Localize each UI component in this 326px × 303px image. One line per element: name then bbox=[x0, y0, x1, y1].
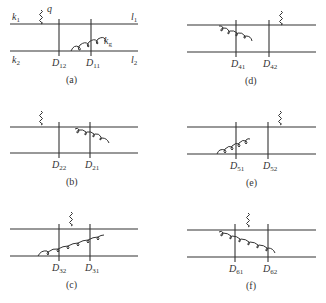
svg-text:k2: k2 bbox=[12, 54, 20, 67]
svg-text:D41: D41 bbox=[230, 58, 246, 71]
panel-b: D22 D21 (b) bbox=[10, 111, 138, 188]
svg-text:(e): (e) bbox=[246, 177, 257, 189]
photon-icon bbox=[279, 111, 282, 125]
panel-d: D41 D42 (d) bbox=[187, 11, 316, 87]
photon-icon bbox=[40, 111, 43, 125]
svg-text:(d): (d) bbox=[245, 75, 257, 87]
panel-e: D51 D52 (e) bbox=[187, 111, 316, 189]
svg-text:q: q bbox=[47, 3, 52, 14]
gluon-line bbox=[71, 38, 105, 52]
gluon-line bbox=[75, 128, 109, 143]
svg-text:(a): (a) bbox=[66, 74, 77, 86]
photon-icon bbox=[70, 212, 73, 226]
svg-text:D62: D62 bbox=[262, 263, 278, 276]
panel-f: D61 D62 (f) bbox=[187, 213, 316, 292]
svg-text:D51: D51 bbox=[229, 160, 245, 173]
panel-a: k1 k2 l1 l2 q kg D12 D11 (a) bbox=[10, 3, 138, 86]
svg-text:(b): (b) bbox=[66, 176, 78, 188]
svg-text:(c): (c) bbox=[66, 279, 77, 291]
svg-text:l1: l1 bbox=[131, 11, 138, 24]
svg-text:D12: D12 bbox=[51, 57, 67, 70]
feynman-diagrams: k1 k2 l1 l2 q kg D12 D11 (a) D22 D21 (b)… bbox=[0, 0, 326, 303]
svg-text:l2: l2 bbox=[131, 54, 138, 67]
photon-icon bbox=[40, 10, 43, 24]
svg-text:(f): (f) bbox=[246, 280, 256, 292]
svg-text:D52: D52 bbox=[262, 160, 278, 173]
photon-icon bbox=[247, 213, 250, 227]
svg-text:D11: D11 bbox=[85, 57, 100, 70]
svg-text:D22: D22 bbox=[51, 159, 67, 172]
svg-text:k1: k1 bbox=[12, 11, 20, 24]
gluon-line bbox=[219, 231, 275, 253]
gluon-line bbox=[217, 139, 250, 154]
photon-icon bbox=[280, 11, 283, 25]
panel-c: D32 D31 (c) bbox=[10, 212, 138, 291]
svg-text:D32: D32 bbox=[51, 262, 67, 275]
gluon-line bbox=[38, 235, 104, 256]
svg-text:D21: D21 bbox=[84, 159, 100, 172]
svg-text:D42: D42 bbox=[262, 58, 278, 71]
svg-text:D61: D61 bbox=[228, 263, 244, 276]
svg-text:D31: D31 bbox=[84, 262, 100, 275]
svg-text:kg: kg bbox=[104, 35, 112, 48]
